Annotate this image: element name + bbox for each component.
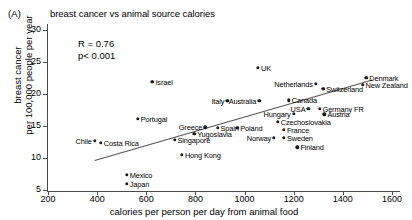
data-point <box>258 99 261 102</box>
data-point-label: Chile <box>75 136 91 145</box>
data-point-label: UK <box>261 63 271 72</box>
data-point <box>318 107 321 110</box>
data-point <box>296 145 299 148</box>
data-point <box>276 120 279 123</box>
y-tick-mark <box>43 30 48 31</box>
x-tick-label: 400 <box>77 194 117 204</box>
y-tick-label: 30 <box>17 24 41 34</box>
data-point-label: Netherlands <box>274 79 313 88</box>
p-value: p< 0.001 <box>78 50 115 62</box>
data-point-label: Finland <box>300 143 323 152</box>
data-point-label: Mexico <box>130 170 153 179</box>
data-point <box>321 87 324 90</box>
y-tick-label: 10 <box>17 152 41 162</box>
data-point <box>292 112 295 115</box>
data-point <box>151 80 154 83</box>
data-point <box>282 136 285 139</box>
data-point <box>180 153 183 156</box>
data-point-label: Sweden <box>287 133 313 142</box>
figure-title: breast cancer vs animal source calories <box>50 8 215 19</box>
x-tick-label: 1200 <box>274 194 314 204</box>
data-point <box>282 128 285 131</box>
data-point <box>125 182 128 185</box>
y-tick-label: 5 <box>17 184 41 194</box>
x-tick-label: 200 <box>28 194 68 204</box>
data-point-label: Japan <box>130 179 150 188</box>
data-point-label: Costa Rica <box>104 138 139 147</box>
statistics-annotation: R = 0.76 p< 0.001 <box>78 38 115 62</box>
y-tick-mark <box>43 158 48 159</box>
data-point <box>287 99 290 102</box>
y-tick-label: 20 <box>17 88 41 98</box>
data-point <box>323 113 326 116</box>
data-point-label: Italy <box>211 97 224 106</box>
data-point <box>364 76 367 79</box>
y-tick-label: 25 <box>17 56 41 66</box>
data-point-label: Australia <box>229 97 257 106</box>
data-point <box>99 141 102 144</box>
x-tick-label: 1000 <box>225 194 265 204</box>
data-point <box>173 138 176 141</box>
data-point-label: Norway <box>247 133 271 142</box>
x-tick-label: 1600 <box>372 194 412 204</box>
data-point-label: New Zealand <box>366 81 408 90</box>
data-point-label: Poland <box>240 123 262 132</box>
x-tick-label: 800 <box>175 194 215 204</box>
data-point <box>136 117 139 120</box>
data-point-label: Singapore <box>178 136 211 145</box>
data-point-label: Israel <box>155 77 172 86</box>
data-point <box>314 82 317 85</box>
y-tick-label: 15 <box>17 120 41 130</box>
x-tick-label: 1400 <box>323 194 363 204</box>
data-point <box>307 107 310 110</box>
x-tick-label: 600 <box>126 194 166 204</box>
x-axis-line <box>47 191 400 192</box>
data-point <box>256 66 259 69</box>
correlation-value: R = 0.76 <box>78 38 115 50</box>
data-point <box>272 136 275 139</box>
data-point <box>125 173 128 176</box>
y-axis-line <box>47 24 48 192</box>
data-point-label: Switzerland <box>326 84 363 93</box>
data-point-label: Portugal <box>141 114 168 123</box>
data-point-label: Hong Kong <box>185 150 221 159</box>
y-tick-mark <box>43 94 48 95</box>
x-axis-title: calories per person per day from animal … <box>0 206 408 217</box>
y-tick-mark <box>43 62 48 63</box>
data-point <box>93 139 96 142</box>
y-tick-mark <box>43 126 48 127</box>
